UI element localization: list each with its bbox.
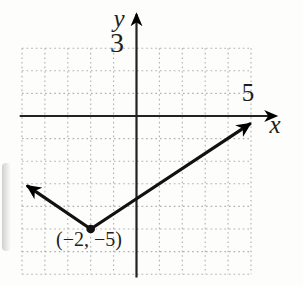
vertex-coordinate-label: (−2, −5) <box>43 229 135 249</box>
function-graph <box>28 124 250 233</box>
graph-ray-right <box>91 124 250 229</box>
graph-figure: y 3 5 x (−2, −5) <box>0 0 303 285</box>
graph-ray-left <box>28 186 91 229</box>
x-tick-label-5: 5 <box>235 80 261 105</box>
y-tick-label-3: 3 <box>103 29 131 57</box>
x-axis-label: x <box>261 112 289 137</box>
